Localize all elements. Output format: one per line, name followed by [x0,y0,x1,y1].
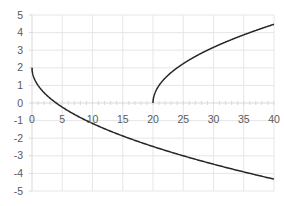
x-tick-label: 40 [268,113,280,125]
y-tick-label: 1 [17,79,23,91]
y-tick-label: -2 [14,132,23,144]
x-tick-label: 5 [59,113,65,125]
y-tick-label: 0 [17,97,23,109]
x-tick-label: 30 [208,113,220,125]
x-tick-label: 10 [87,113,99,125]
y-axis-tick-labels: 543210-1-2-3-4-5 [14,9,24,197]
x-tick-label: 25 [177,113,189,125]
x-tick-label: 35 [238,113,250,125]
chart: 543210-1-2-3-4-5 0510152025303540 [0,0,284,206]
y-tick-label: -3 [14,149,23,161]
y-tick-label: -1 [14,114,23,126]
axes [29,15,274,191]
x-tick-label: 15 [117,113,129,125]
y-tick-label: 5 [17,9,23,21]
y-tick-label: 4 [17,26,23,38]
y-tick-label: -5 [14,185,23,197]
y-tick-label: 2 [17,61,23,73]
x-axis-tick-labels: 0510152025303540 [29,113,280,125]
y-tick-label: 3 [17,44,23,56]
x-tick-label: 20 [147,113,159,125]
y-tick-label: -4 [14,167,23,179]
x-tick-label: 0 [29,113,35,125]
